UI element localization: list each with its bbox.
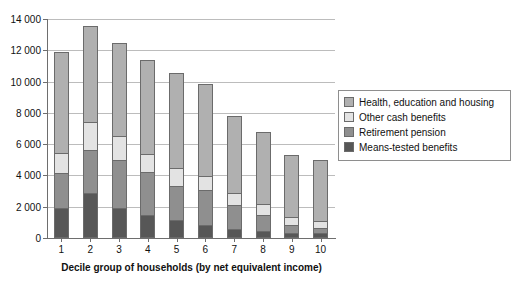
x-tick-mark: [61, 238, 62, 242]
bar-segment[interactable]: [169, 186, 184, 220]
y-axis-tick-label: 6 000: [0, 139, 41, 150]
bar-segment[interactable]: [198, 176, 213, 190]
x-tick-mark: [148, 238, 149, 242]
bar-stack[interactable]: [284, 155, 299, 238]
legend-item-label: Retirement pension: [359, 127, 446, 138]
bar-segment[interactable]: [140, 154, 155, 172]
bar-segment[interactable]: [83, 150, 98, 192]
bar-segment[interactable]: [198, 225, 213, 238]
y-axis-tick-label: 12 000: [0, 45, 41, 56]
bar-segment[interactable]: [284, 155, 299, 217]
bar-segment[interactable]: [227, 229, 242, 238]
bars-layer: [47, 19, 335, 238]
legend-item[interactable]: Health, education and housing: [344, 95, 505, 109]
bar-stack[interactable]: [140, 60, 155, 238]
x-tick-mark: [90, 238, 91, 242]
x-tick-mark: [177, 238, 178, 242]
x-axis-tick-label: 6: [203, 244, 209, 255]
x-tick-mark: [292, 238, 293, 242]
x-tick-mark: [263, 238, 264, 242]
x-axis-tick-label: 2: [87, 244, 93, 255]
x-axis-tick-label: 10: [315, 244, 326, 255]
x-tick-mark: [321, 238, 322, 242]
y-axis-tick-label: 14 000: [0, 14, 41, 25]
x-axis-title: Decile group of households (by net equiv…: [47, 262, 336, 273]
legend-item[interactable]: Means-tested benefits: [344, 140, 505, 154]
x-axis-tick-label: 1: [59, 244, 65, 255]
bar-stack[interactable]: [54, 52, 69, 238]
bar-segment[interactable]: [169, 168, 184, 185]
bar-segment[interactable]: [313, 221, 328, 228]
bar-segment[interactable]: [140, 172, 155, 215]
bar-segment[interactable]: [112, 208, 127, 238]
legend-item-label: Means-tested benefits: [359, 142, 457, 153]
legend-item[interactable]: Other cash benefits: [344, 110, 505, 124]
bar-segment[interactable]: [313, 160, 328, 221]
bar-stack[interactable]: [256, 132, 271, 238]
bar-segment[interactable]: [54, 52, 69, 153]
bar-segment[interactable]: [83, 26, 98, 123]
bar-segment[interactable]: [284, 217, 299, 225]
x-axis-tick-label: 3: [116, 244, 122, 255]
x-axis-tick-label: 9: [289, 244, 295, 255]
bar-segment[interactable]: [256, 132, 271, 204]
bar-segment[interactable]: [169, 220, 184, 238]
legend-swatch-icon: [344, 127, 354, 137]
bar-segment[interactable]: [54, 208, 69, 239]
bar-stack[interactable]: [313, 160, 328, 238]
legend-item-label: Health, education and housing: [359, 97, 494, 108]
legend-swatch-icon: [344, 97, 354, 107]
bar-segment[interactable]: [54, 153, 69, 173]
bar-segment[interactable]: [112, 160, 127, 208]
bar-segment[interactable]: [227, 193, 242, 205]
bar-segment[interactable]: [198, 190, 213, 224]
chart-legend: Health, education and housingOther cash …: [338, 90, 511, 161]
bar-stack[interactable]: [112, 43, 127, 239]
y-axis-tick-label: 2 000: [0, 201, 41, 212]
bar-segment[interactable]: [227, 205, 242, 228]
bar-segment[interactable]: [54, 173, 69, 207]
bar-segment[interactable]: [169, 73, 184, 168]
x-axis-tick-label: 5: [174, 244, 180, 255]
x-tick-mark: [205, 238, 206, 242]
legend-item[interactable]: Retirement pension: [344, 125, 505, 139]
bar-segment[interactable]: [112, 43, 127, 137]
legend-swatch-icon: [344, 142, 354, 152]
x-tick-mark: [119, 238, 120, 242]
bar-segment[interactable]: [140, 215, 155, 238]
legend-item-label: Other cash benefits: [359, 112, 446, 123]
bar-stack[interactable]: [83, 26, 98, 238]
bar-segment[interactable]: [256, 215, 271, 231]
bar-segment[interactable]: [140, 60, 155, 153]
bar-stack[interactable]: [169, 73, 184, 238]
bar-segment[interactable]: [256, 231, 271, 238]
y-axis-tick-label: 10 000: [0, 76, 41, 87]
bar-segment[interactable]: [256, 204, 271, 215]
bar-segment[interactable]: [198, 84, 213, 176]
y-axis-tick-label: 0: [0, 233, 41, 244]
bar-segment[interactable]: [284, 225, 299, 233]
bar-segment[interactable]: [83, 122, 98, 150]
x-tick-mark: [234, 238, 235, 242]
bar-stack[interactable]: [198, 84, 213, 238]
bar-stack[interactable]: [227, 116, 242, 238]
bar-segment[interactable]: [227, 116, 242, 193]
x-axis-tick-label: 8: [260, 244, 266, 255]
stacked-bar-chart: 02 0004 0006 0008 00010 00012 00014 000 …: [0, 0, 517, 284]
y-axis-tick-label: 4 000: [0, 170, 41, 181]
x-axis-tick-label: 7: [231, 244, 237, 255]
x-axis-tick-label: 4: [145, 244, 151, 255]
bar-segment[interactable]: [83, 193, 98, 238]
legend-swatch-icon: [344, 112, 354, 122]
y-axis-tick-label: 8 000: [0, 107, 41, 118]
bar-segment[interactable]: [112, 136, 127, 159]
